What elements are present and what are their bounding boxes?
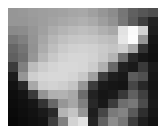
pixel-cell xyxy=(108,35,118,44)
pixel-cell xyxy=(118,26,128,35)
pixel-cell xyxy=(18,53,28,62)
pixel-cell xyxy=(58,26,68,35)
pixel-cell xyxy=(28,72,38,81)
pixel-cell xyxy=(88,62,98,71)
pixel-cell xyxy=(148,26,158,35)
pixel-cell xyxy=(8,99,18,108)
pixel-cell xyxy=(98,35,108,44)
pixel-cell xyxy=(28,35,38,44)
pixel-cell xyxy=(8,62,18,71)
pixel-cell xyxy=(18,17,28,26)
pixel-cell xyxy=(58,44,68,53)
pixel-cell xyxy=(138,117,148,126)
pixel-cell xyxy=(58,117,68,126)
pixel-cell xyxy=(68,62,78,71)
pixel-cell xyxy=(118,53,128,62)
pixel-cell xyxy=(148,108,158,117)
pixel-cell xyxy=(8,8,18,17)
pixel-cell xyxy=(58,72,68,81)
pixel-cell xyxy=(28,17,38,26)
pixel-cell xyxy=(88,72,98,81)
pixel-cell xyxy=(18,44,28,53)
pixel-cell xyxy=(78,8,88,17)
pixel-cell xyxy=(98,99,108,108)
pixel-cell xyxy=(98,90,108,99)
pixel-cell xyxy=(18,35,28,44)
pixel-cell xyxy=(8,81,18,90)
pixel-cell xyxy=(118,117,128,126)
pixel-cell xyxy=(148,99,158,108)
pixel-cell xyxy=(8,26,18,35)
pixel-cell xyxy=(148,90,158,99)
pixel-cell xyxy=(18,108,28,117)
pixel-cell xyxy=(48,53,58,62)
pixel-cell xyxy=(88,90,98,99)
pixel-cell xyxy=(48,108,58,117)
pixel-cell xyxy=(118,90,128,99)
pixel-cell xyxy=(18,90,28,99)
pixel-cell xyxy=(138,53,148,62)
pixel-cell xyxy=(128,117,138,126)
pixel-cell xyxy=(78,81,88,90)
pixel-cell xyxy=(48,17,58,26)
pixel-cell xyxy=(38,62,48,71)
pixel-cell xyxy=(88,44,98,53)
pixel-cell xyxy=(98,8,108,17)
pixel-cell xyxy=(88,35,98,44)
pixel-cell xyxy=(8,17,18,26)
pixel-cell xyxy=(108,117,118,126)
pixel-cell xyxy=(58,35,68,44)
pixel-cell xyxy=(88,53,98,62)
pixel-cell xyxy=(138,99,148,108)
pixel-cell xyxy=(108,72,118,81)
pixel-cell xyxy=(118,44,128,53)
pixel-cell xyxy=(108,108,118,117)
pixel-cell xyxy=(88,108,98,117)
pixel-cell xyxy=(138,44,148,53)
pixel-cell xyxy=(128,90,138,99)
pixel-cell xyxy=(98,17,108,26)
pixel-cell xyxy=(138,90,148,99)
pixel-cell xyxy=(58,53,68,62)
pixel-cell xyxy=(118,8,128,17)
pixel-cell xyxy=(98,117,108,126)
pixel-cell xyxy=(8,108,18,117)
pixelated-image-canvas xyxy=(8,8,158,126)
pixel-cell xyxy=(148,117,158,126)
pixel-cell xyxy=(48,26,58,35)
pixel-cell xyxy=(88,117,98,126)
pixel-cell xyxy=(98,108,108,117)
pixel-cell xyxy=(48,44,58,53)
pixel-cell xyxy=(28,117,38,126)
pixel-cell xyxy=(138,35,148,44)
pixel-cell xyxy=(8,117,18,126)
pixel-cell xyxy=(28,44,38,53)
pixel-cell xyxy=(128,17,138,26)
pixel-cell xyxy=(28,99,38,108)
pixel-cell xyxy=(138,8,148,17)
pixel-cell xyxy=(38,108,48,117)
pixel-cell xyxy=(98,72,108,81)
pixel-cell xyxy=(88,17,98,26)
pixel-cell xyxy=(128,62,138,71)
pixel-cell xyxy=(98,53,108,62)
pixel-cell xyxy=(78,62,88,71)
pixel-cell xyxy=(68,99,78,108)
pixel-cell xyxy=(148,35,158,44)
pixel-cell xyxy=(18,99,28,108)
pixel-cell xyxy=(68,26,78,35)
pixel-cell xyxy=(108,99,118,108)
pixel-cell xyxy=(108,26,118,35)
pixel-cell xyxy=(118,35,128,44)
pixel-cell xyxy=(128,99,138,108)
pixel-cell xyxy=(118,108,128,117)
pixel-cell xyxy=(8,90,18,99)
pixel-cell xyxy=(98,81,108,90)
pixel-cell xyxy=(38,35,48,44)
pixel-cell xyxy=(108,90,118,99)
pixel-cell xyxy=(68,53,78,62)
pixel-cell xyxy=(28,62,38,71)
pixel-cell xyxy=(28,8,38,17)
pixel-cell xyxy=(68,81,78,90)
pixel-cell xyxy=(18,26,28,35)
